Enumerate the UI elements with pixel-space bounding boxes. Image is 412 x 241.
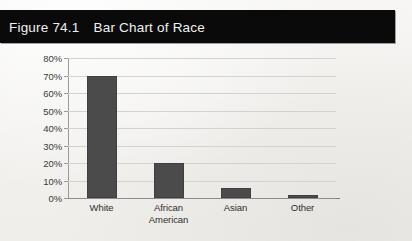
figure-header-text: Figure 74.1 Bar Chart of Race	[9, 19, 205, 34]
bar-chart: 0%10%20%30%40%50%60%70%80% WhiteAfrican …	[0, 43, 412, 241]
x-axis-tick-label: African American	[149, 202, 188, 225]
x-axis-tick-label: Other	[291, 202, 314, 214]
gridline	[68, 58, 336, 59]
bar	[87, 76, 117, 199]
x-axis-tick-label: White	[90, 202, 114, 214]
figure-number: Figure 74.1	[9, 19, 80, 34]
y-axis-tick-label: 30%	[6, 140, 62, 151]
y-axis-tick-label: 0%	[6, 193, 62, 204]
y-axis-tick-label: 20%	[6, 158, 62, 169]
x-axis-tick-label: Asian	[224, 202, 247, 214]
plot-area	[68, 58, 336, 198]
figure-caption: Bar Chart of Race	[94, 19, 205, 34]
y-axis-tick-label: 60%	[6, 88, 62, 99]
y-axis-tick-label: 10%	[6, 175, 62, 186]
gridline	[68, 198, 336, 199]
bar	[288, 195, 318, 199]
bar	[221, 188, 251, 198]
y-axis-labels: 0%10%20%30%40%50%60%70%80%	[4, 58, 62, 198]
bar	[154, 163, 184, 198]
y-axis-tick-label: 80%	[6, 53, 62, 64]
y-axis-tick-label: 40%	[6, 123, 62, 134]
figure-header-bar: Figure 74.1 Bar Chart of Race	[0, 10, 395, 43]
y-axis-tick-label: 70%	[6, 70, 62, 81]
y-axis-tick-label: 50%	[6, 105, 62, 116]
